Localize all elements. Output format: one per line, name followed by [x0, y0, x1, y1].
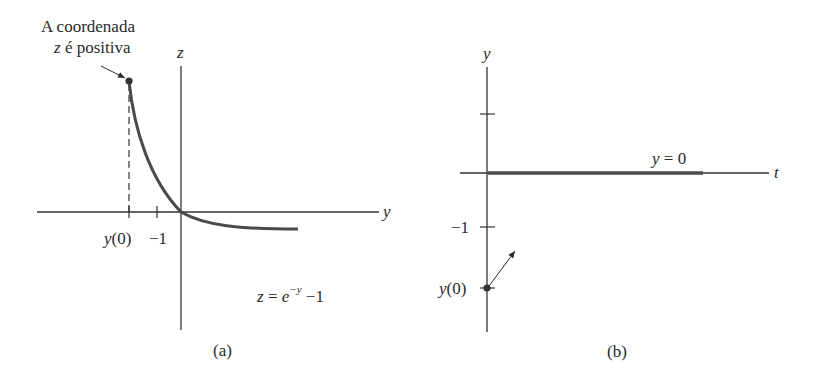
panel-b-horizontal-axis-label: t — [774, 164, 779, 181]
panel-b-tick-label-y0: y(0) — [439, 280, 466, 297]
panel-a-annotation-rest: é positiva — [61, 38, 131, 57]
panel-a-caption: (a) — [213, 342, 232, 359]
panel-a-graphics — [37, 66, 379, 330]
equation-exponent: −y — [289, 283, 301, 295]
panel-a-annotation-arrow — [101, 66, 125, 78]
panel-a-tick-label-minus-one: −1 — [149, 230, 167, 247]
panel-a-tick-label-y0: y(0) — [104, 230, 131, 247]
equation-equals: = — [264, 287, 282, 306]
panel-b-line-label: y = 0 — [652, 150, 686, 167]
panel-a-y0-rest: (0) — [112, 229, 132, 248]
panel-a-equation: z = e−y −1 — [257, 286, 324, 305]
equation-tail: −1 — [302, 287, 324, 306]
panel-b-vertical-axis-label: y — [483, 45, 491, 62]
panel-b-y0-var: y — [439, 279, 447, 298]
panel-b-y0-rest: (0) — [447, 279, 467, 298]
panel-a-annotation-line2: z é positiva — [54, 39, 131, 56]
equation-lhs: z — [257, 287, 264, 306]
panel-b-graphics — [460, 67, 769, 332]
panel-a-annotation-line1: A coordenada — [41, 18, 135, 35]
panel-a-annotation-var: z — [54, 38, 61, 57]
panel-b-caption: (b) — [607, 343, 627, 360]
panel-a-vertical-axis-label: z — [177, 44, 184, 61]
panel-a-curve — [129, 81, 298, 229]
panel-a-y0-var: y — [104, 229, 112, 248]
panel-b-line-label-rest: = 0 — [660, 149, 687, 168]
figure-canvas — [0, 0, 819, 381]
panel-b-tick-label-minus-one: −1 — [451, 219, 469, 236]
panel-b-direction-arrow — [489, 251, 515, 286]
panel-a-initial-point — [125, 77, 132, 84]
panel-b-line-label-var: y — [652, 149, 660, 168]
panel-a-horizontal-axis-label: y — [383, 203, 391, 220]
